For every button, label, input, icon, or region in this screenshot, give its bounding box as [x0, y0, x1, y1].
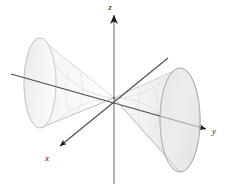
origin-vertex	[113, 97, 115, 99]
y-axis-label: y	[211, 126, 216, 136]
x-axis-label: x	[44, 153, 49, 163]
left-cone-base-ellipse	[24, 38, 56, 128]
double-cone-figure: z y x	[0, 0, 225, 190]
z-axis-label: z	[107, 2, 112, 12]
double-cone-diagram: z y x	[0, 0, 225, 190]
